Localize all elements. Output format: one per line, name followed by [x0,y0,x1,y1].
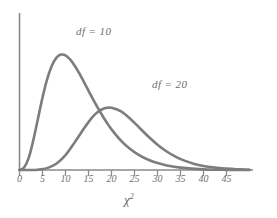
chi-squared-distribution-figure: df = 10 df = 20 0 5 10 15 20 25 30 35 40… [0,0,277,218]
x-tick-label-15: 15 [84,173,94,184]
x-axis-tick-marks [20,170,227,176]
x-tick-label-5: 5 [40,173,45,184]
x-tick-label-0: 0 [17,173,22,184]
x-tick-label-40: 40 [199,173,209,184]
annotation-df-20: df = 20 [152,78,187,90]
x-tick-label-35: 35 [176,173,186,184]
curve-df-20 [20,107,250,170]
x-tick-label-30: 30 [153,173,163,184]
x-tick-label-20: 20 [107,173,117,184]
x-tick-label-10: 10 [61,173,71,184]
axes-group [20,13,254,170]
x-axis-title: χ2 [124,192,134,208]
annotation-df-10: df = 10 [76,25,111,37]
x-axis-title-exponent: 2 [130,192,134,201]
x-tick-label-45: 45 [222,173,232,184]
curve-df-10 [20,54,250,170]
chart-canvas [0,0,277,218]
x-tick-label-25: 25 [130,173,140,184]
